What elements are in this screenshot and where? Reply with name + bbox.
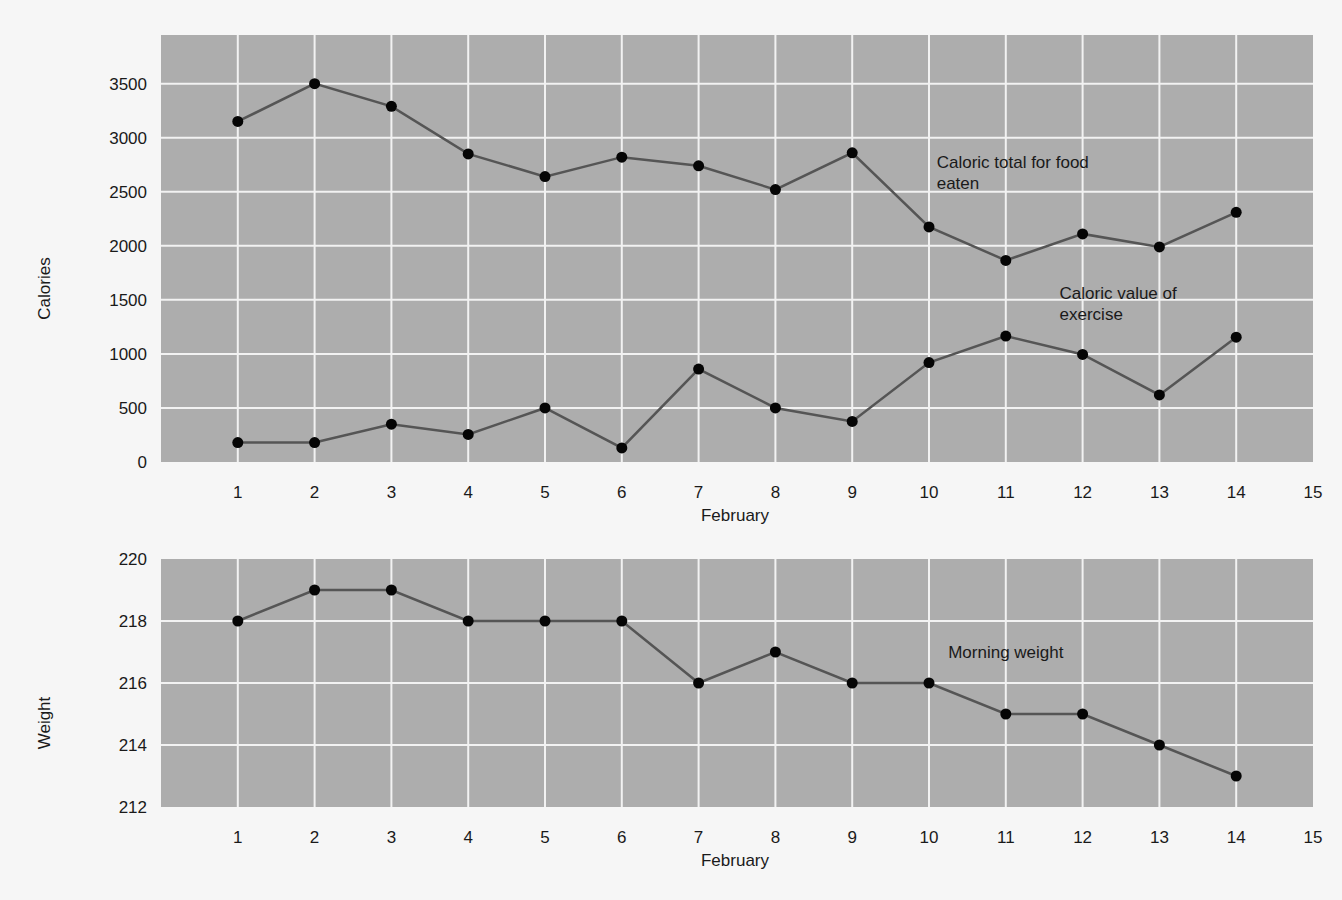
x-tick-label: 8: [771, 483, 780, 502]
x-tick-label: 2: [310, 828, 319, 847]
series-annotation-line2: eaten: [937, 174, 980, 193]
x-tick-label: 7: [694, 828, 703, 847]
data-point-marker: [770, 402, 781, 413]
x-tick-label: 15: [1304, 483, 1323, 502]
x-tick-label: 4: [463, 483, 472, 502]
data-point-marker: [847, 147, 858, 158]
y-tick-label: 3000: [109, 129, 147, 148]
x-axis-label: February: [701, 506, 770, 525]
y-tick-label: 1000: [109, 345, 147, 364]
data-point-marker: [232, 437, 243, 448]
x-tick-label: 5: [540, 483, 549, 502]
x-tick-label: 7: [694, 483, 703, 502]
data-point-marker: [924, 221, 935, 232]
y-tick-label: 218: [119, 612, 147, 631]
data-point-marker: [386, 101, 397, 112]
data-point-marker: [1154, 241, 1165, 252]
data-point-marker: [1000, 709, 1011, 720]
x-axis-label: February: [701, 851, 770, 870]
x-tick-label: 2: [310, 483, 319, 502]
data-point-marker: [309, 437, 320, 448]
x-tick-label: 5: [540, 828, 549, 847]
data-point-marker: [847, 678, 858, 689]
data-point-marker: [1077, 349, 1088, 360]
x-tick-label: 3: [387, 828, 396, 847]
data-point-marker: [770, 647, 781, 658]
data-point-marker: [463, 148, 474, 159]
y-tick-label: 2000: [109, 237, 147, 256]
x-tick-label: 1: [233, 828, 242, 847]
data-point-marker: [693, 678, 704, 689]
series-annotation-line2: exercise: [1060, 305, 1123, 324]
data-point-marker: [540, 171, 551, 182]
data-point-marker: [463, 429, 474, 440]
y-tick-label: 212: [119, 798, 147, 817]
data-point-marker: [386, 419, 397, 430]
x-tick-label: 12: [1073, 828, 1092, 847]
x-tick-label: 10: [920, 828, 939, 847]
y-axis-label: Weight: [35, 696, 54, 749]
data-point-marker: [386, 585, 397, 596]
data-point-marker: [232, 116, 243, 127]
x-tick-label: 11: [997, 483, 1015, 502]
x-tick-label: 6: [617, 483, 626, 502]
data-point-marker: [1154, 389, 1165, 400]
x-tick-label: 10: [920, 483, 939, 502]
data-point-marker: [770, 184, 781, 195]
data-point-marker: [1077, 228, 1088, 239]
x-tick-label: 14: [1227, 483, 1246, 502]
data-point-marker: [616, 152, 627, 163]
data-point-marker: [309, 585, 320, 596]
data-point-marker: [1231, 207, 1242, 218]
x-tick-label: 12: [1073, 483, 1092, 502]
series-annotation: Caloric value of: [1060, 284, 1177, 303]
x-tick-label: 13: [1150, 483, 1169, 502]
x-tick-label: 9: [847, 483, 856, 502]
data-point-marker: [693, 364, 704, 375]
figure: 0500100015002000250030003500123456789101…: [0, 0, 1342, 900]
data-point-marker: [616, 442, 627, 453]
data-point-marker: [463, 616, 474, 627]
x-tick-label: 3: [387, 483, 396, 502]
data-point-marker: [1231, 332, 1242, 343]
series-annotation: Caloric total for food: [937, 153, 1089, 172]
x-tick-label: 6: [617, 828, 626, 847]
x-tick-label: 11: [997, 828, 1015, 847]
data-point-marker: [540, 402, 551, 413]
x-tick-label: 13: [1150, 828, 1169, 847]
data-point-marker: [847, 416, 858, 427]
y-tick-label: 2500: [109, 183, 147, 202]
data-point-marker: [309, 78, 320, 89]
calories-chart: 0500100015002000250030003500123456789101…: [35, 35, 1322, 525]
plot-area: [161, 35, 1313, 462]
y-tick-label: 214: [119, 736, 147, 755]
data-point-marker: [924, 678, 935, 689]
y-tick-label: 220: [119, 550, 147, 569]
data-point-marker: [693, 160, 704, 171]
y-tick-label: 1500: [109, 291, 147, 310]
x-tick-label: 14: [1227, 828, 1246, 847]
y-tick-label: 216: [119, 674, 147, 693]
data-point-marker: [1231, 771, 1242, 782]
data-point-marker: [540, 616, 551, 627]
y-axis-label: Calories: [35, 257, 54, 319]
chart-canvas: 0500100015002000250030003500123456789101…: [0, 0, 1342, 900]
data-point-marker: [1077, 709, 1088, 720]
x-tick-label: 9: [847, 828, 856, 847]
weight-chart: 212214216218220123456789101112131415Febr…: [35, 550, 1322, 870]
data-point-marker: [1000, 255, 1011, 266]
x-tick-label: 8: [771, 828, 780, 847]
series-annotation: Morning weight: [948, 643, 1064, 662]
x-tick-label: 4: [463, 828, 472, 847]
x-tick-label: 1: [233, 483, 242, 502]
data-point-marker: [232, 616, 243, 627]
data-point-marker: [924, 357, 935, 368]
y-tick-label: 0: [138, 453, 147, 472]
y-tick-label: 3500: [109, 75, 147, 94]
data-point-marker: [616, 616, 627, 627]
data-point-marker: [1000, 331, 1011, 342]
x-tick-label: 15: [1304, 828, 1323, 847]
data-point-marker: [1154, 740, 1165, 751]
y-tick-label: 500: [119, 399, 147, 418]
